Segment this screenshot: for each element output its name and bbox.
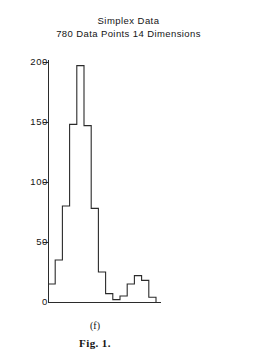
- y-axis-ticks: 200 150 100 50 0: [0, 0, 48, 355]
- y-tick-label-150: 150: [14, 116, 48, 127]
- histogram-series: [48, 66, 156, 302]
- figure-caption: Fig. 1.: [0, 337, 190, 349]
- y-tick-label-100: 100: [14, 176, 48, 187]
- panel-label: (f): [0, 320, 190, 331]
- figure-panel: Simplex Data 780 Data Points 14 Dimensio…: [0, 0, 257, 355]
- y-tick-label-50: 50: [14, 236, 48, 247]
- histogram-step-outline: [48, 55, 168, 305]
- y-tick-label-200: 200: [14, 56, 48, 67]
- y-tick-label-0: 0: [14, 296, 48, 307]
